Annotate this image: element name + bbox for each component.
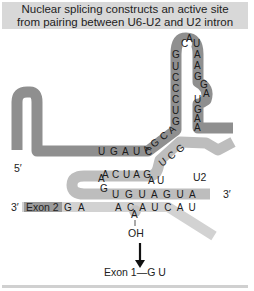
- exon2-tail-seq: G A: [64, 202, 87, 213]
- u2-three-prime-label: 3′: [223, 188, 231, 200]
- u2-au: A U: [148, 175, 164, 186]
- svg-text:G: G: [172, 49, 180, 60]
- branch-point-a: A: [131, 209, 138, 220]
- exon-three-prime-label: 3′: [11, 201, 19, 213]
- u2-top-row: A C U A G: [102, 169, 152, 180]
- svg-text:U: U: [172, 61, 179, 72]
- svg-text:A: A: [194, 49, 201, 60]
- svg-text:A: A: [194, 60, 201, 71]
- down-arrow-icon: [135, 243, 145, 268]
- product-label: Exon 1—G U: [104, 266, 166, 278]
- u2-left-g: G: [100, 183, 108, 194]
- five-prime-label: 5′: [14, 162, 22, 174]
- bottom-divider: [2, 285, 248, 288]
- svg-text:C: C: [172, 94, 179, 105]
- svg-text:A: A: [186, 33, 193, 44]
- u2-bottom-row: U G U A G U A: [112, 189, 197, 200]
- svg-text:U: U: [193, 38, 200, 49]
- svg-text:C: C: [172, 83, 179, 94]
- exon2-label: Exon 2: [26, 201, 59, 213]
- u2-label: U2: [193, 171, 207, 183]
- svg-text:U: U: [172, 105, 179, 116]
- splicing-diagram: C A U G U C C C U G A A G G A U G A A U …: [0, 0, 254, 291]
- intron-row-seq: A C A U C A U: [115, 202, 197, 213]
- oh-label: OH: [128, 227, 144, 239]
- svg-text:A: A: [203, 88, 210, 99]
- svg-text:A: A: [194, 122, 201, 133]
- svg-text:C: C: [172, 72, 179, 83]
